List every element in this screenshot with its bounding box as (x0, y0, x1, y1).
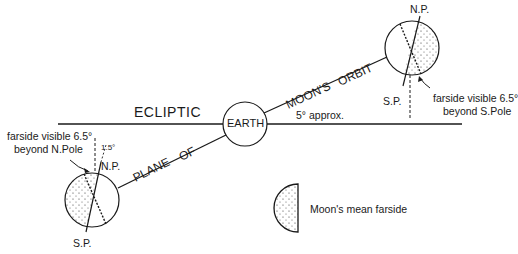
earth-label: EARTH (227, 118, 264, 129)
legend-label: Moon's mean farside (310, 204, 407, 215)
legend-half-disc (274, 184, 298, 232)
small-angle-label: 1.5° (101, 144, 115, 152)
ecliptic-label: ECLIPTIC (134, 105, 201, 119)
right-note-line2: beyond S.Pole (443, 106, 511, 117)
right-np-label: N.P. (410, 4, 429, 15)
left-sp-label: S.P. (73, 238, 92, 249)
left-note-line1: farside visible 6.5° (7, 131, 92, 142)
right-note-line1: farside visible 6.5° (433, 93, 518, 104)
right-sp-label: S.P. (383, 96, 402, 107)
left-np-label: N.P. (101, 161, 120, 172)
left-note-line2: beyond N.Pole (14, 144, 83, 155)
angle-label: 5° approx. (296, 110, 344, 121)
